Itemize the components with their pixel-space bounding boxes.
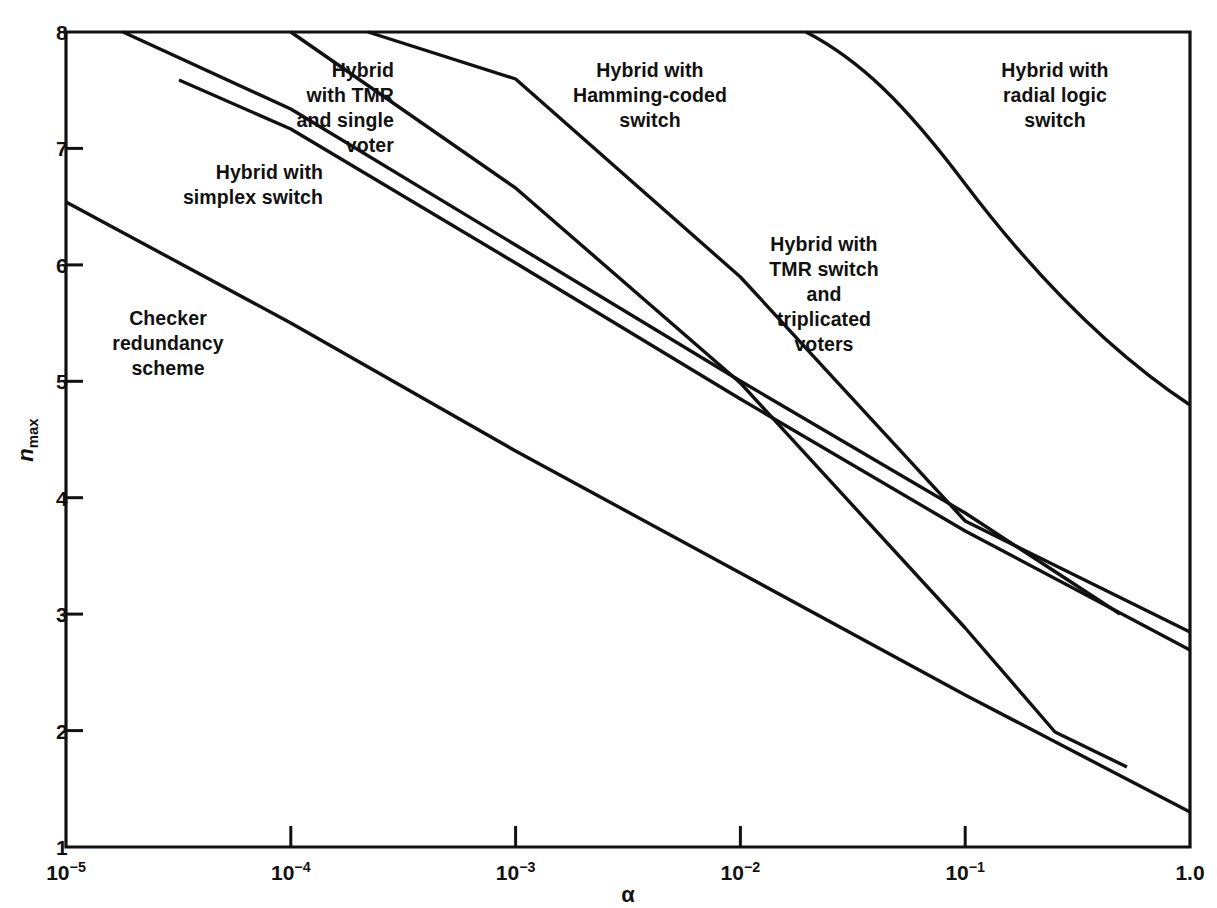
y-tick-label-6: 6 [56, 254, 68, 275]
curve-checker-redundancy-scheme [66, 202, 1190, 812]
y-tick-label-2: 2 [56, 720, 68, 741]
y-tick-label-3: 3 [56, 604, 68, 625]
curve-label-hybrid-radial-logic-switch: Hybrid with radial logic switch [930, 58, 1180, 133]
x-axis-ticks [291, 826, 965, 847]
x-tick-label-1e-2: 10−2 [721, 862, 761, 883]
curve-label-hybrid-hamming-coded-switch: Hybrid with Hamming-coded switch [500, 58, 800, 133]
chart-figure: 8 7 6 5 4 3 2 1 10−5 10−4 10−3 10−2 10−1… [0, 0, 1217, 908]
x-tick-label-1e-3: 10−3 [496, 862, 536, 883]
chart-plot-area [0, 0, 1217, 908]
y-tick-label-8: 8 [56, 22, 68, 43]
y-tick-label-1: 1 [56, 837, 68, 858]
x-tick-label-1e-4: 10−4 [271, 862, 311, 883]
curve-label-checker-redundancy-scheme: Checker redundancy scheme [53, 306, 283, 381]
curve-label-hybrid-tmr-single-voter: Hybrid with TMR and single voter [219, 58, 394, 158]
y-tick-label-7: 7 [56, 138, 68, 159]
curve-label-hybrid-tmr-switch-triplicated-voters: Hybrid with TMR switch and triplicated v… [699, 232, 949, 357]
x-tick-label-1: 1.0 [1175, 862, 1204, 883]
y-tick-label-4: 4 [56, 487, 68, 508]
curve-label-hybrid-simplex-switch: Hybrid with simplex switch [118, 160, 323, 210]
curve-hybrid-hamming-coded-switch [291, 32, 1127, 767]
y-axis-ticks [66, 148, 83, 730]
x-tick-label-1e-5: 10−5 [46, 862, 86, 883]
y-axis-title: nmax [15, 418, 37, 461]
x-tick-label-1e-1: 10−1 [945, 862, 985, 883]
curve-hybrid-simplex-switch [179, 80, 1190, 650]
x-axis-title: α [621, 884, 635, 906]
